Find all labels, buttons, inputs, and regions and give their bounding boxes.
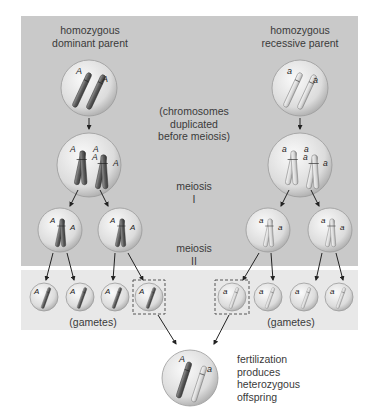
arrow-icon <box>271 253 273 280</box>
label-line: I <box>164 193 224 206</box>
meiosis-1-label: meiosis I <box>164 180 224 205</box>
gamete-recessive-2: a <box>254 283 282 311</box>
arrow-icon <box>214 315 229 344</box>
dominant-parent-label: homozygous dominant parent <box>44 24 136 49</box>
heterozygous-offspring-cell: A a <box>162 350 218 406</box>
svg-text:A: A <box>69 287 75 296</box>
svg-text:A: A <box>91 152 98 162</box>
arrow-icon <box>158 315 176 344</box>
recessive-duplicated-cell: a a a a <box>268 133 332 197</box>
recessive-parent-cell: a a <box>272 60 328 116</box>
svg-text:a: a <box>295 287 300 296</box>
svg-text:a: a <box>340 223 345 232</box>
svg-text:A: A <box>112 158 119 168</box>
label-line: homozygous <box>254 24 346 37</box>
arrow-icon <box>243 253 259 280</box>
arrow-icon <box>46 253 53 280</box>
label-line: heterozygous <box>237 378 327 391</box>
svg-text:A: A <box>49 216 55 225</box>
dominant-parent-cell: A A <box>61 60 117 116</box>
label-line: homozygous <box>44 24 136 37</box>
label-line: dominant parent <box>44 37 136 50</box>
svg-text:a: a <box>330 287 335 296</box>
svg-text:A: A <box>178 354 185 364</box>
svg-text:a: a <box>223 287 228 296</box>
svg-text:A: A <box>69 144 76 154</box>
gamete-recessive-selected: a <box>215 280 249 314</box>
label-line: before meiosis) <box>148 130 240 143</box>
label-line: duplicated <box>148 118 240 131</box>
svg-text:a: a <box>278 223 283 232</box>
gamete-recessive-4: a <box>325 283 353 311</box>
label-line: meiosis <box>164 242 224 255</box>
label-line: II <box>164 255 224 268</box>
gamete-dominant-1: A <box>30 283 58 311</box>
arrow-icon <box>336 253 343 280</box>
svg-text:a: a <box>287 66 292 76</box>
arrow-icon <box>67 253 74 280</box>
arrow-icon <box>113 253 115 280</box>
svg-text:a: a <box>207 364 212 374</box>
svg-text:A: A <box>33 287 39 296</box>
svg-text:A: A <box>138 287 144 296</box>
recessive-parent-label: homozygous recessive parent <box>254 24 346 49</box>
svg-text:a: a <box>323 158 328 168</box>
svg-text:A: A <box>109 216 115 225</box>
recessive-meiosis1-cell-1: a a <box>246 208 290 252</box>
svg-text:A: A <box>129 223 135 232</box>
svg-text:A: A <box>69 223 75 232</box>
fertilization-label: fertilization produces heterozygous offs… <box>237 353 327 403</box>
label-line: fertilization <box>237 353 327 366</box>
label-line: recessive parent <box>254 37 346 50</box>
svg-text:a: a <box>313 75 318 85</box>
dominant-meiosis1-cell-2: A A <box>98 208 142 252</box>
arrow-icon <box>128 253 143 280</box>
gamete-dominant-3: A <box>101 283 129 311</box>
svg-text:a: a <box>321 216 326 225</box>
label-line: produces <box>237 366 327 379</box>
svg-text:A: A <box>101 74 108 84</box>
arrow-icon <box>316 253 322 280</box>
label-line: (chromosomes <box>148 105 240 118</box>
label-line: offspring <box>237 391 327 404</box>
dominant-duplicated-cell: A A A A <box>57 133 121 197</box>
svg-text:A: A <box>75 66 82 76</box>
svg-text:a: a <box>282 144 287 154</box>
svg-text:a: a <box>259 216 264 225</box>
duplication-label: (chromosomes duplicated before meiosis) <box>148 105 240 143</box>
svg-text:a: a <box>303 152 308 162</box>
recessive-meiosis1-cell-2: a a <box>308 208 352 252</box>
dominant-meiosis1-cell-1: A A <box>38 208 82 252</box>
svg-text:A: A <box>104 287 110 296</box>
label-line: meiosis <box>164 180 224 193</box>
gamete-dominant-selected: A <box>133 280 165 314</box>
meiosis-2-label: meiosis II <box>164 242 224 267</box>
gametes-left-label: (gametes) <box>58 316 128 329</box>
gamete-dominant-2: A <box>66 283 94 311</box>
svg-text:a: a <box>259 287 264 296</box>
gametes-right-label: (gametes) <box>256 316 326 329</box>
gamete-recessive-3: a <box>290 283 318 311</box>
